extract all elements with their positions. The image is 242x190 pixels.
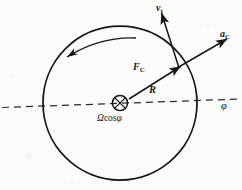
acceleration-vector-label: aC — [220, 29, 230, 41]
rotation-direction-arrow — [67, 38, 136, 57]
velocity-subscript: t — [160, 7, 162, 15]
force-vector-label: FC — [133, 62, 145, 74]
acceleration-vector-aC — [177, 39, 227, 68]
phi-symbol: φ — [117, 113, 122, 123]
cos-text: cos — [104, 113, 117, 123]
angular-rate-label: Ωcosφ — [97, 114, 122, 124]
force-subscript: C — [140, 66, 145, 74]
force-symbol: F — [133, 61, 140, 72]
coriolis-force-figure: vt aC FC R Ωcosφ φ — [0, 0, 242, 190]
acceleration-subscript: C — [225, 33, 230, 41]
latitude-axis-label: φ — [221, 101, 227, 112]
velocity-vector-label: vt — [156, 3, 163, 15]
omega-symbol: Ω — [97, 113, 104, 123]
figure-canvas — [0, 0, 242, 190]
radius-label: R — [149, 85, 156, 96]
